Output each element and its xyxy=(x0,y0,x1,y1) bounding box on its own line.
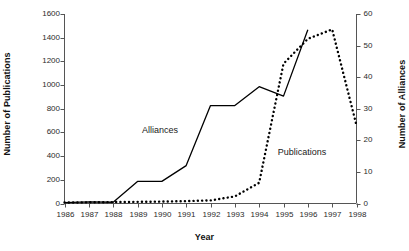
y-axis-left-tick-label: 200 xyxy=(22,175,60,184)
x-axis-tick-label: 1986 xyxy=(57,210,75,219)
y-axis-right-tick-label: 10 xyxy=(364,167,388,176)
series-line-alliances xyxy=(65,30,308,203)
y-axis-left-ticks xyxy=(61,15,65,205)
x-axis-tick-label: 1994 xyxy=(251,210,269,219)
x-axis-tick-label: 1992 xyxy=(203,210,221,219)
x-axis-tick-label: 1990 xyxy=(154,210,172,219)
series-line-publications xyxy=(65,29,357,202)
x-axis-tick-label: 1989 xyxy=(130,210,148,219)
y-axis-right-tick-label: 0 xyxy=(364,199,388,208)
x-axis-tick-label: 1995 xyxy=(276,210,294,219)
y-axis-right-tick-label: 60 xyxy=(364,9,388,18)
y-axis-left-tick-label: 1600 xyxy=(22,9,60,18)
y-axis-left-tick-label: 0 xyxy=(22,199,60,208)
y-axis-left-tick-label: 1200 xyxy=(22,56,60,65)
y-axis-left-tick-label: 1400 xyxy=(22,33,60,42)
x-axis-tick-label: 1998 xyxy=(349,210,367,219)
y-axis-right-tick-label: 20 xyxy=(364,135,388,144)
y-axis-left-tick-label: 800 xyxy=(22,104,60,113)
x-axis-tick-label: 1991 xyxy=(178,210,196,219)
y-axis-left-tick-label: 400 xyxy=(22,151,60,160)
series-annotation-publications: Publications xyxy=(278,147,327,157)
y-axis-right-tick-label: 40 xyxy=(364,72,388,81)
x-axis-tick-label: 1987 xyxy=(81,210,99,219)
x-axis-ticks xyxy=(66,204,358,208)
series-annotation-alliances: Alliances xyxy=(142,125,178,135)
y-axis-left-tick-label: 1000 xyxy=(22,80,60,89)
y-axis-right-ticks xyxy=(357,15,361,205)
y-axis-left-tick-label: 600 xyxy=(22,127,60,136)
x-axis-tick-label: 1997 xyxy=(324,210,342,219)
axis-lines xyxy=(65,14,357,204)
chart-container: Number of Publications Number of Allianc… xyxy=(0,0,409,251)
x-axis-tick-label: 1993 xyxy=(227,210,245,219)
x-axis-tick-label: 1988 xyxy=(105,210,123,219)
y-axis-right-tick-label: 50 xyxy=(364,41,388,50)
x-axis-tick-label: 1996 xyxy=(300,210,318,219)
y-axis-right-tick-label: 30 xyxy=(364,104,388,113)
